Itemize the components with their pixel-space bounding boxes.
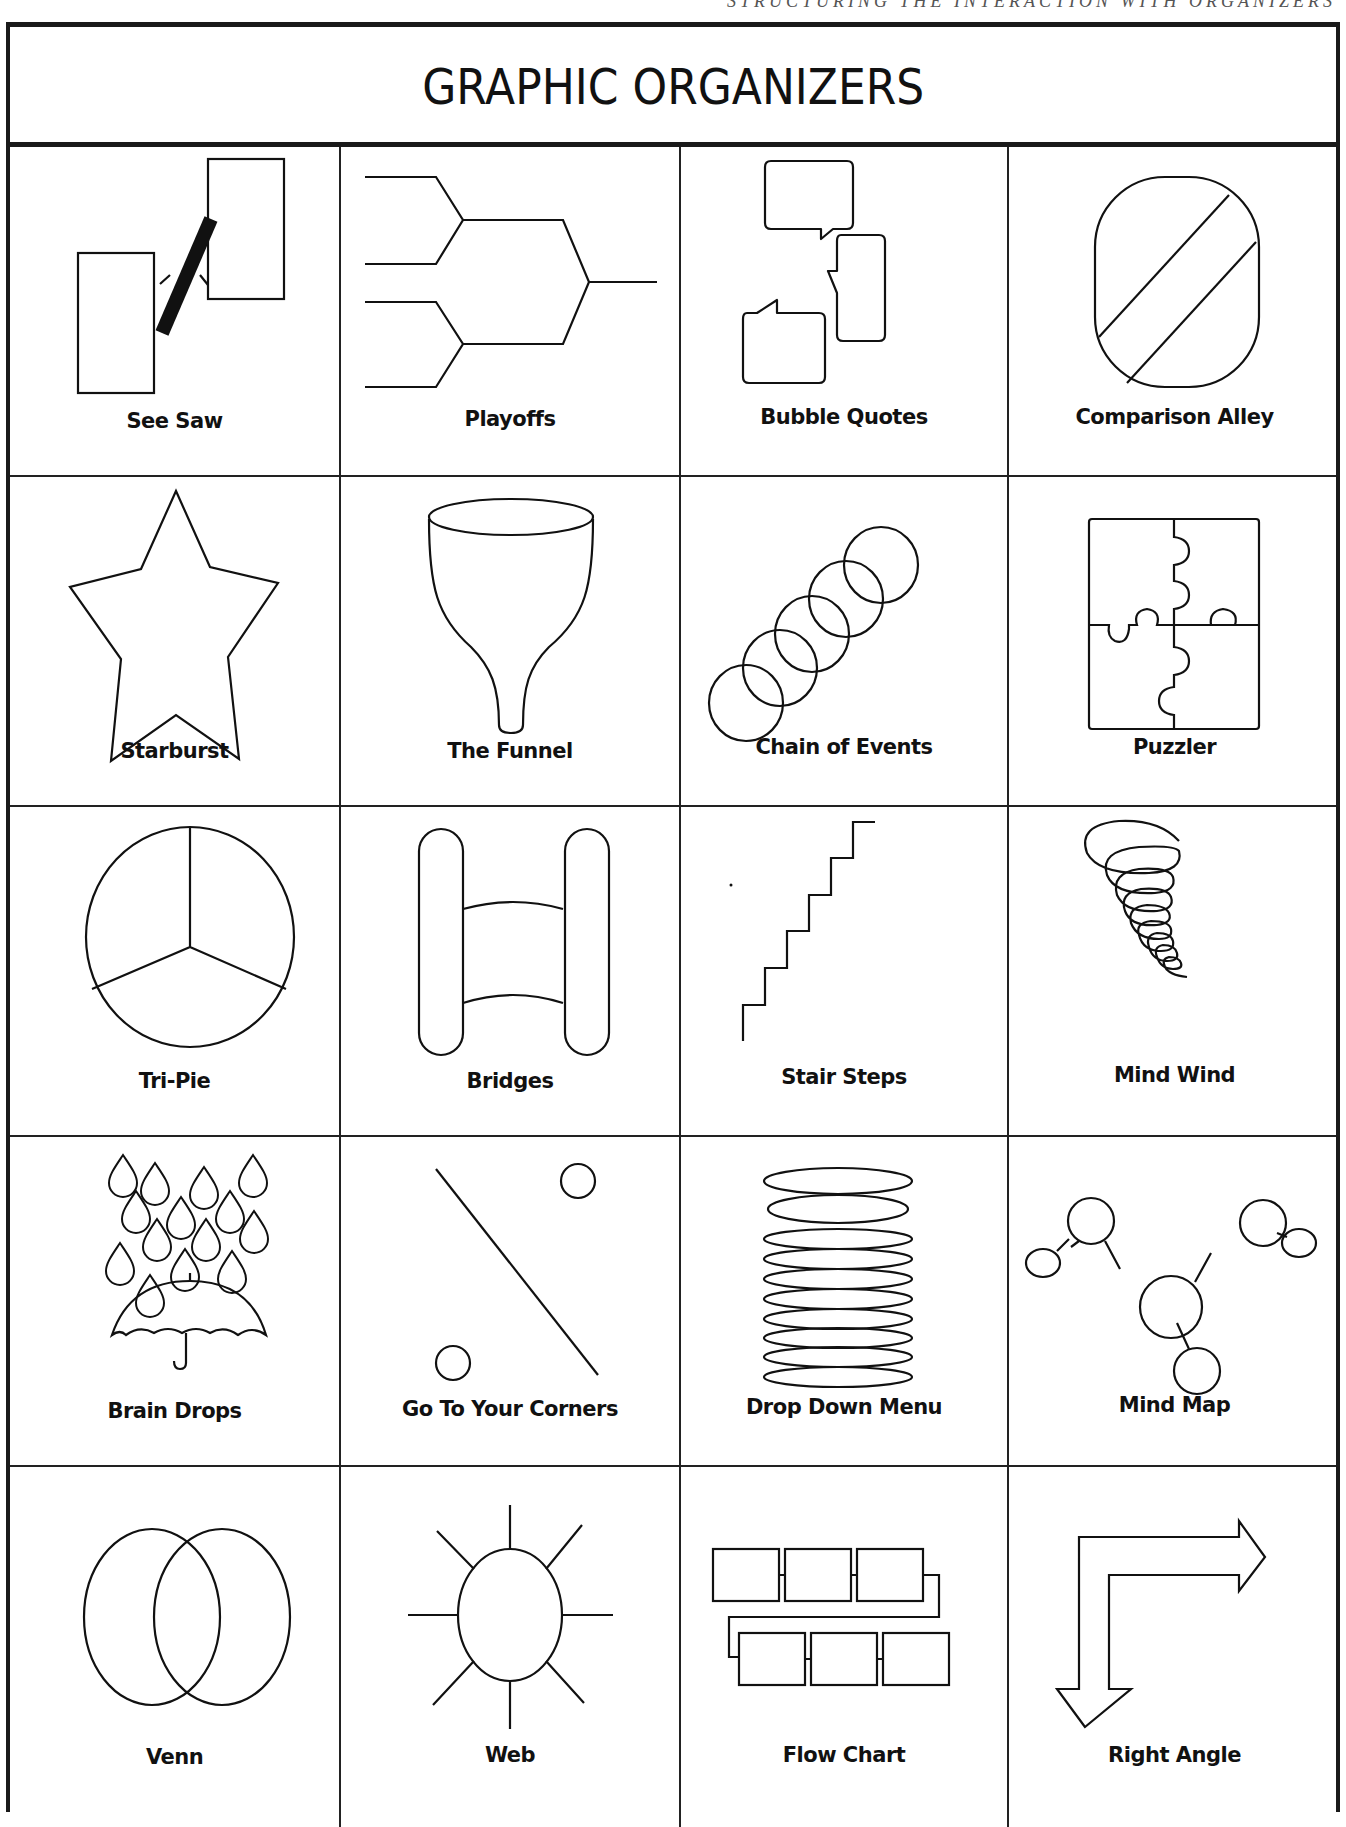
cell-flow-chart: Flow Chart xyxy=(681,1467,1009,1827)
organizer-label: Comparison Alley xyxy=(1009,405,1340,429)
organizer-sheet: GRAPHIC ORGANIZERS See Saw xyxy=(6,22,1340,1812)
grid-row-3: Tri-Pie Bridges Stair Steps xyxy=(10,807,1336,1137)
cell-drop-down-menu: Drop Down Menu xyxy=(681,1137,1009,1465)
organizer-label: The Funnel xyxy=(341,739,679,763)
grid-row-1: See Saw Playoffs Bubble Quotes xyxy=(10,147,1336,477)
cell-brain-drops: Brain Drops xyxy=(10,1137,341,1465)
cell-tri-pie: Tri-Pie xyxy=(10,807,341,1135)
cell-puzzler: Puzzler xyxy=(1009,477,1340,805)
organizer-label: Playoffs xyxy=(341,407,679,431)
organizer-label: Mind Wind xyxy=(1009,1063,1340,1087)
organizer-label: Bubble Quotes xyxy=(681,405,1007,429)
cell-venn: Venn xyxy=(10,1467,341,1827)
organizer-label: Mind Map xyxy=(1009,1393,1340,1417)
organizer-label: Bridges xyxy=(341,1069,679,1093)
page-title: GRAPHIC ORGANIZERS xyxy=(422,58,924,116)
cell-mind-wind: Mind Wind xyxy=(1009,807,1340,1135)
cell-bridges: Bridges xyxy=(341,807,681,1135)
grid-row-4: Brain Drops Go To Your Corners xyxy=(10,1137,1336,1467)
grid-row-2: Starburst The Funnel Chain of Events xyxy=(10,477,1336,807)
cell-comparison-alley: Comparison Alley xyxy=(1009,147,1340,475)
grid-row-5: Venn Web F xyxy=(10,1467,1336,1827)
organizer-label: Go To Your Corners xyxy=(341,1397,679,1421)
organizer-label: Venn xyxy=(10,1745,339,1769)
running-header: STRUCTURING THE INTERACTION WITH ORGANIZ… xyxy=(727,0,1336,12)
organizer-label: Chain of Events xyxy=(681,735,1007,759)
organizer-label: Starburst xyxy=(10,739,339,763)
mind-map-icon xyxy=(1009,1137,1340,1467)
cell-funnel: The Funnel xyxy=(341,477,681,805)
organizer-label: Flow Chart xyxy=(681,1743,1007,1767)
spiral-tornado-icon xyxy=(1009,807,1340,1137)
organizer-label: See Saw xyxy=(10,409,339,433)
organizer-label: Tri-Pie xyxy=(10,1069,339,1093)
cell-see-saw: See Saw xyxy=(10,147,341,475)
cell-stair-steps: Stair Steps xyxy=(681,807,1009,1135)
organizer-label: Puzzler xyxy=(1009,735,1340,759)
cell-starburst: Starburst xyxy=(10,477,341,805)
cell-bubble-quotes: Bubble Quotes xyxy=(681,147,1009,475)
cell-go-to-your-corners: Go To Your Corners xyxy=(341,1137,681,1465)
cell-mind-map: Mind Map xyxy=(1009,1137,1340,1465)
cell-right-angle: Right Angle xyxy=(1009,1467,1340,1827)
cell-web: Web xyxy=(341,1467,681,1827)
organizer-label: Drop Down Menu xyxy=(681,1395,1007,1419)
organizer-label: Brain Drops xyxy=(10,1399,339,1423)
cell-playoffs: Playoffs xyxy=(341,147,681,475)
organizer-label: Stair Steps xyxy=(681,1065,1007,1089)
organizer-label: Right Angle xyxy=(1009,1743,1340,1767)
organizer-label: Web xyxy=(341,1743,679,1767)
title-box: GRAPHIC ORGANIZERS xyxy=(10,27,1336,147)
cell-chain-of-events: Chain of Events xyxy=(681,477,1009,805)
